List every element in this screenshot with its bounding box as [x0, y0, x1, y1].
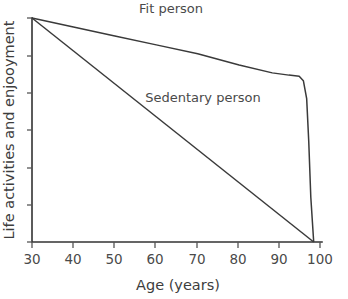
x-tick-label: 100 [307, 251, 333, 267]
x-axis-title: Age (years) [136, 277, 220, 293]
chart-axes [32, 18, 322, 242]
x-tick-label: 40 [64, 251, 81, 267]
series-label-sedentary-person: Sedentary person [145, 90, 261, 105]
y-axis-title: Life activities and enjooyment [1, 20, 17, 239]
x-tick-label: 30 [23, 251, 40, 267]
x-axis-ticks [32, 242, 320, 248]
x-axis-tick-labels: 30 40 50 60 70 80 90 100 [23, 251, 332, 267]
x-tick-label: 70 [188, 251, 205, 267]
x-tick-label: 80 [229, 251, 246, 267]
x-tick-label: 60 [146, 251, 163, 267]
line-chart: 30 40 50 60 70 80 90 100 Fit person Sede… [0, 0, 348, 299]
series-line-sedentary-person [32, 18, 314, 242]
chart-container: 30 40 50 60 70 80 90 100 Fit person Sede… [0, 0, 348, 299]
series-label-fit-person: Fit person [139, 1, 203, 16]
x-tick-label: 90 [270, 251, 287, 267]
x-tick-label: 50 [105, 251, 122, 267]
